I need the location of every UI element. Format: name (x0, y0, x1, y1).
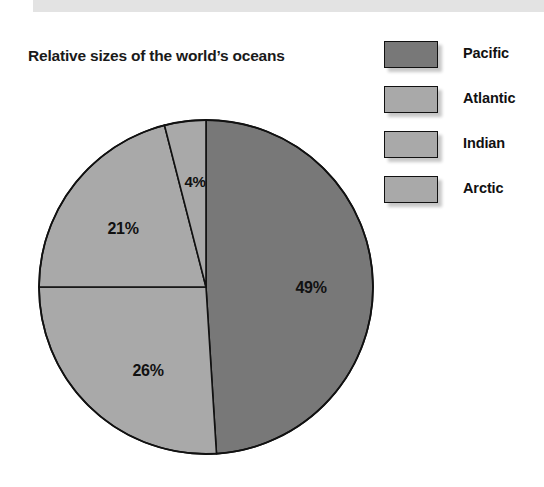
legend-item-atlantic: Atlantic (384, 86, 544, 131)
legend: Pacific Atlantic Indian Arctic (384, 41, 544, 221)
slice-label-arctic: 4% (184, 173, 205, 190)
slice-label-indian: 21% (107, 220, 138, 238)
legend-swatch-atlantic (384, 86, 438, 113)
pie-slice-pacific (206, 120, 373, 454)
pie-slice-atlantic (39, 287, 216, 454)
legend-swatch-indian (384, 131, 438, 158)
chart-page: Relative sizes of the world’s oceans 49%… (0, 0, 544, 487)
slice-label-atlantic: 26% (132, 362, 163, 380)
slice-label-pacific: 49% (295, 279, 326, 297)
legend-label-arctic: Arctic (463, 180, 504, 196)
legend-item-arctic: Arctic (384, 176, 544, 221)
legend-swatch-arctic (384, 176, 438, 203)
legend-item-pacific: Pacific (384, 41, 544, 86)
legend-swatch-pacific (384, 41, 438, 68)
legend-label-pacific: Pacific (463, 45, 509, 61)
legend-item-indian: Indian (384, 131, 544, 176)
legend-label-indian: Indian (463, 135, 505, 151)
legend-label-atlantic: Atlantic (463, 90, 515, 106)
